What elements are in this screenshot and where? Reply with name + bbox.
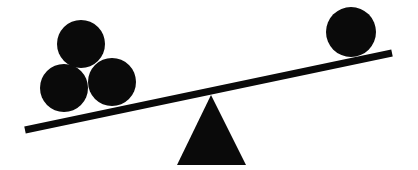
balance-illustration: A black silhouette seesaw: a straight pl…	[0, 0, 418, 170]
ball-left-middle	[88, 58, 136, 106]
ball-left-lower	[40, 64, 88, 112]
ball-left-top	[57, 20, 105, 68]
ball-right	[326, 7, 376, 57]
seesaw-balance-graphic	[0, 0, 418, 170]
